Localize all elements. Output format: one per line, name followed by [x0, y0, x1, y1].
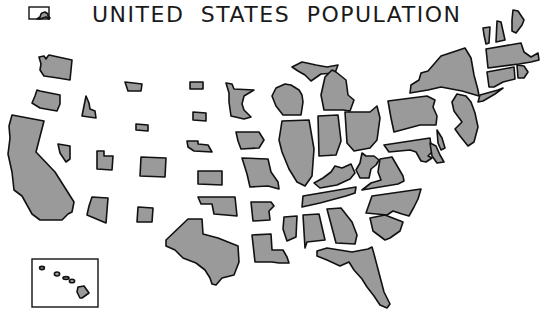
population-cartogram: WashingtonOregonCaliforniaIdahoNevadaUta…	[0, 0, 552, 320]
state-wv: West Virginia	[356, 153, 379, 178]
state-or: Oregon	[32, 90, 60, 111]
state-nv: Nevada	[58, 144, 70, 162]
state-vt: Vermont	[483, 27, 490, 44]
state-ri: Rhode Island	[517, 65, 528, 78]
state-id: Idaho	[82, 96, 96, 118]
state-ca: California	[8, 115, 74, 220]
hawaii-island-kauai	[40, 266, 45, 269]
state-pa: Pennsylvania	[388, 96, 437, 132]
state-ny: New York	[410, 48, 479, 96]
state-wi: Wisconsin	[272, 84, 303, 115]
state-in: Indiana	[318, 115, 341, 156]
state-ar: Arkansas	[251, 202, 274, 221]
state-ut: Utah	[97, 151, 113, 170]
state-ma: Massachusetts	[486, 43, 539, 68]
state-nm: New Mexico	[137, 207, 153, 222]
state-wy: Wyoming	[136, 124, 148, 131]
state-ga: Georgia	[327, 208, 357, 244]
state-me: Maine	[512, 10, 524, 33]
state-ok: Oklahoma	[198, 197, 237, 216]
state-ks: Kansas	[198, 171, 222, 185]
state-li: Long Island	[478, 88, 503, 102]
state-nh: New Hampshire	[496, 21, 505, 42]
state-sc: South Carolina	[370, 215, 403, 240]
state-al: Alabama	[303, 214, 325, 248]
hawaii-island-molokai	[63, 277, 69, 280]
map-title: UNITED STATES POPULATION	[92, 2, 461, 27]
state-oh: Ohio	[345, 106, 380, 151]
state-mt: Montana	[125, 82, 142, 91]
state-mi-l: Michigan (Lower)	[321, 70, 354, 111]
state-ms: Mississippi	[283, 216, 297, 241]
hawaii-island-maui	[69, 279, 74, 283]
state-nc: North Carolina	[366, 189, 421, 216]
state-tn: Tennessee	[302, 187, 356, 207]
state-az: Arizona	[87, 197, 108, 223]
state-wa: Washington	[39, 55, 72, 80]
state-ia: Iowa	[236, 132, 264, 149]
state-il: Illinois	[279, 120, 314, 186]
hawaii-island-oahu	[54, 272, 59, 276]
state-la: Louisiana	[252, 234, 289, 263]
state-nd: North Dakota	[190, 82, 203, 89]
state-tx: Texas	[166, 219, 239, 285]
state-sd: South Dakota	[193, 112, 206, 121]
state-ne: Nebraska	[187, 141, 212, 152]
state-ky: Kentucky	[314, 164, 355, 188]
state-mo: Missouri	[242, 158, 279, 189]
state-mn: Minnesota	[226, 83, 254, 119]
state-ak	[37, 12, 50, 19]
state-nj: New Jersey	[452, 94, 478, 146]
states-layer: WashingtonOregonCaliforniaIdahoNevadaUta…	[8, 10, 539, 308]
state-co: Colorado	[140, 157, 166, 177]
state-fl: Florida	[317, 247, 390, 308]
hawaii-island-hawaii	[77, 286, 89, 298]
state-de: Delaware	[437, 130, 445, 150]
state-ct: Connecticut	[487, 67, 515, 87]
